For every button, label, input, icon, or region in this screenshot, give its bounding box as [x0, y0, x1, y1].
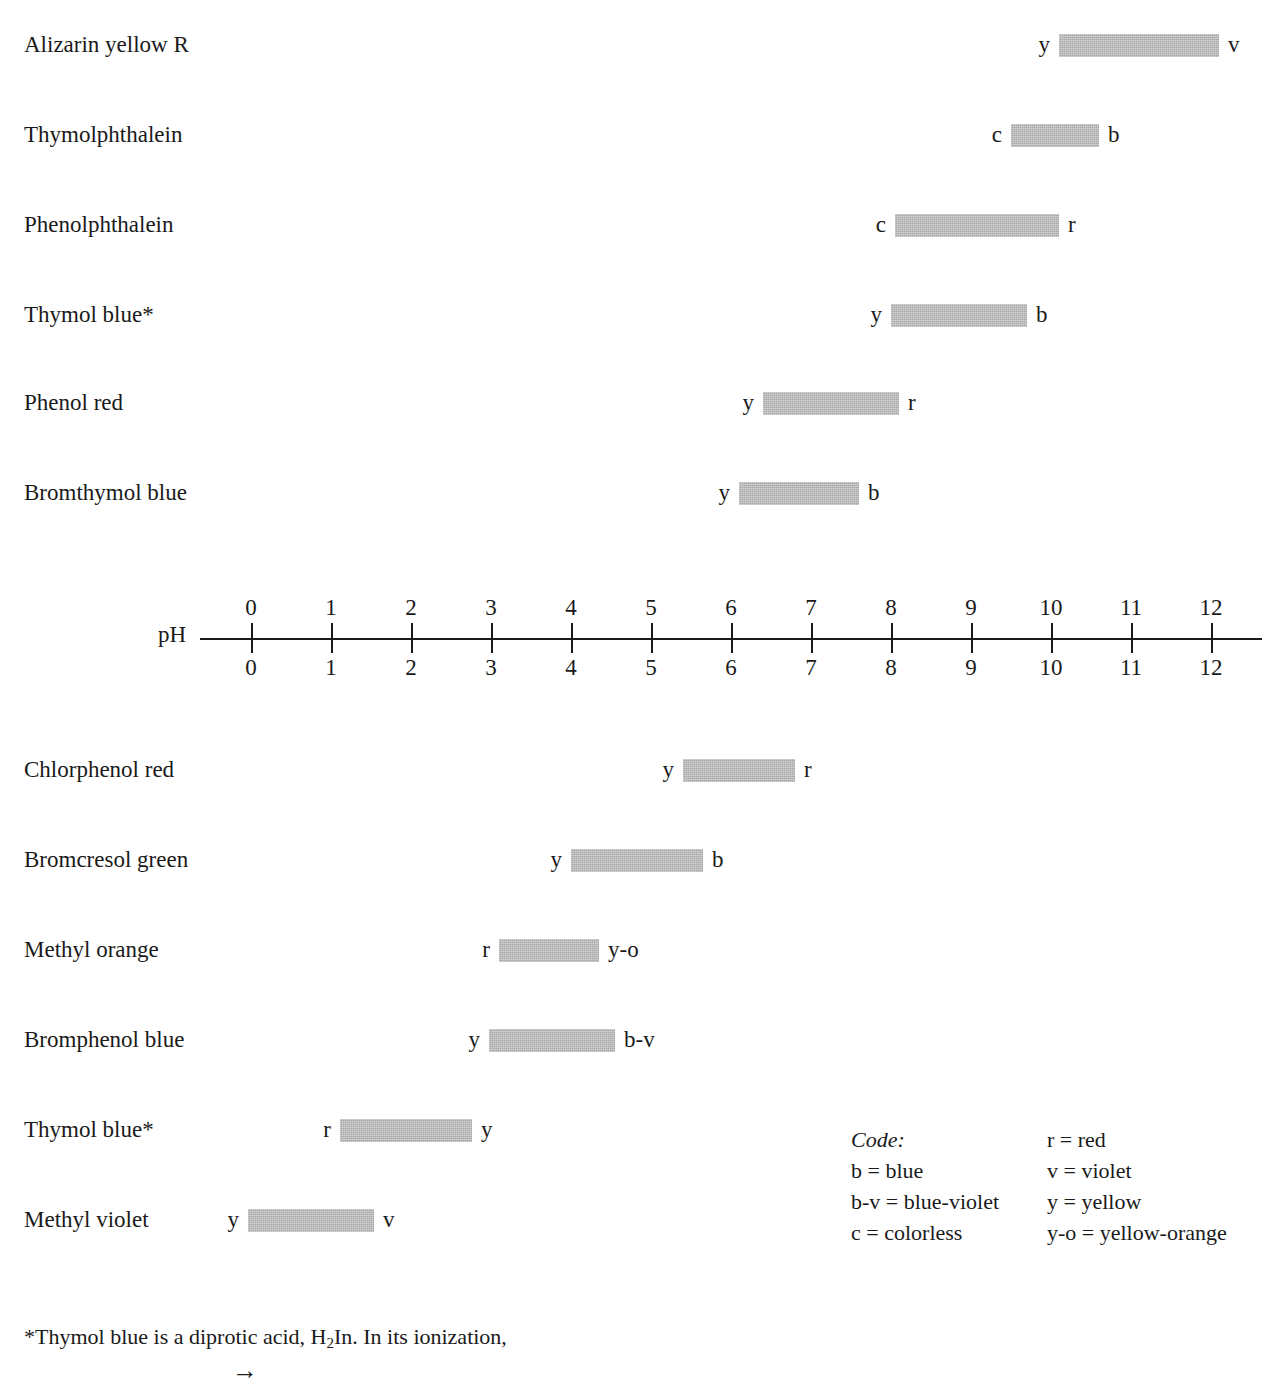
- ph-tick-label-top: 12: [1200, 596, 1223, 619]
- indicator-base-color-label: b-v: [615, 1020, 655, 1060]
- indicator-name: Methyl violet: [24, 1200, 149, 1240]
- indicator-acid-color-label: y: [743, 383, 764, 423]
- indicator-base-color-label: b: [859, 473, 880, 513]
- ph-axis-tick: [971, 623, 973, 653]
- ph-tick-label-bottom: 8: [885, 656, 897, 679]
- footnote-subscript: 2: [326, 1335, 334, 1351]
- indicator-base-color-label: r: [1059, 205, 1076, 245]
- indicator-acid-color-label: y: [228, 1200, 249, 1240]
- indicator-name: Bromcresol green: [24, 840, 188, 880]
- indicator-range-bar: [499, 939, 599, 962]
- code-legend-entry: r = red: [1047, 1124, 1227, 1155]
- ph-axis-tick: [1211, 623, 1213, 653]
- ph-tick-label-bottom: 6: [725, 656, 737, 679]
- indicator-range-bar: [683, 759, 795, 782]
- ph-axis-label: pH: [158, 622, 186, 648]
- ph-axis-tick: [651, 623, 653, 653]
- indicator-row: Bromthymol blue y b: [0, 473, 1267, 513]
- indicator-name: Bromphenol blue: [24, 1020, 184, 1060]
- ph-axis-tick: [491, 623, 493, 653]
- ph-axis-tick: [1131, 623, 1133, 653]
- indicator-row: Chlorphenol red y r: [0, 750, 1267, 790]
- indicator-row: Thymol blue* y b: [0, 295, 1267, 335]
- ph-tick-label-top: 5: [645, 596, 657, 619]
- indicator-base-color-label: y: [472, 1110, 493, 1150]
- indicator-range-bar: [763, 392, 899, 415]
- indicator-name: Thymol blue*: [24, 295, 154, 335]
- indicator-row: Methyl orange r y-o: [0, 930, 1267, 970]
- footnote-prefix: *Thymol blue is a diprotic acid, H: [24, 1324, 326, 1349]
- indicator-range-bar: [1059, 34, 1219, 57]
- ph-tick-label-bottom: 10: [1040, 656, 1063, 679]
- indicator-base-color-label: v: [1219, 25, 1240, 65]
- ph-tick-label-top: 8: [885, 596, 897, 619]
- code-legend-column-left: Code: b = blue b-v = blue-violet c = col…: [851, 1124, 1047, 1248]
- indicator-range-bar: [891, 304, 1027, 327]
- ph-axis-tick: [331, 623, 333, 653]
- footnote: *Thymol blue is a diprotic acid, H2In. I…: [24, 1322, 507, 1358]
- indicator-name: Thymol blue*: [24, 1110, 154, 1150]
- indicator-row: Bromcresol green y b: [0, 840, 1267, 880]
- ph-axis-tick: [1051, 623, 1053, 653]
- footnote-suffix: In. In its ionization,: [334, 1324, 507, 1349]
- indicator-name: Phenol red: [24, 383, 123, 423]
- indicator-range-bar: [895, 214, 1059, 237]
- equilibrium-arrow-icon: →: [232, 1358, 258, 1382]
- ph-tick-label-top: 4: [565, 596, 577, 619]
- indicator-acid-color-label: y: [871, 295, 892, 335]
- code-legend-entry: y-o = yellow-orange: [1047, 1217, 1227, 1248]
- indicator-row: Alizarin yellow R y v: [0, 25, 1267, 65]
- indicator-acid-color-label: r: [482, 930, 499, 970]
- indicator-acid-color-label: c: [992, 115, 1011, 155]
- ph-tick-label-bottom: 1: [325, 656, 337, 679]
- code-legend-entry: y = yellow: [1047, 1186, 1227, 1217]
- indicator-range-bar: [571, 849, 703, 872]
- ph-axis-tick: [731, 623, 733, 653]
- indicator-name: Alizarin yellow R: [24, 25, 189, 65]
- code-legend-entry: b = blue: [851, 1155, 1047, 1186]
- indicator-row: Thymolphthalein c b: [0, 115, 1267, 155]
- ph-tick-label-bottom: 7: [805, 656, 817, 679]
- ph-tick-label-bottom: 5: [645, 656, 657, 679]
- indicator-base-color-label: y-o: [599, 930, 639, 970]
- indicator-range-bar: [489, 1029, 615, 1052]
- indicator-acid-color-label: y: [663, 750, 684, 790]
- indicator-acid-color-label: y: [1039, 25, 1060, 65]
- indicator-base-color-label: b: [1099, 115, 1120, 155]
- indicator-range-bar: [340, 1119, 472, 1142]
- indicator-acid-color-label: r: [323, 1110, 340, 1150]
- indicator-base-color-label: r: [899, 383, 916, 423]
- ph-tick-label-top: 11: [1120, 596, 1142, 619]
- code-legend-entry: b-v = blue-violet: [851, 1186, 1047, 1217]
- ph-tick-label-top: 6: [725, 596, 737, 619]
- ph-tick-label-bottom: 9: [965, 656, 977, 679]
- indicator-base-color-label: r: [795, 750, 812, 790]
- ph-tick-label-top: 10: [1040, 596, 1063, 619]
- indicator-base-color-label: v: [374, 1200, 395, 1240]
- indicator-base-color-label: b: [1027, 295, 1048, 335]
- ph-axis-tick: [811, 623, 813, 653]
- ph-tick-label-bottom: 0: [245, 656, 257, 679]
- indicator-name: Bromthymol blue: [24, 473, 187, 513]
- ph-tick-label-top: 9: [965, 596, 977, 619]
- indicator-range-bar: [248, 1209, 374, 1232]
- indicator-range-bar: [1011, 124, 1099, 147]
- ph-tick-label-top: 0: [245, 596, 257, 619]
- code-legend-entry: v = violet: [1047, 1155, 1227, 1186]
- ph-axis-tick: [411, 623, 413, 653]
- indicator-name: Phenolphthalein: [24, 205, 173, 245]
- indicator-acid-color-label: c: [876, 205, 895, 245]
- code-legend-entry: c = colorless: [851, 1217, 1047, 1248]
- indicator-name: Thymolphthalein: [24, 115, 182, 155]
- indicator-acid-color-label: y: [551, 840, 572, 880]
- indicator-acid-color-label: y: [719, 473, 740, 513]
- indicator-row: Bromphenol blue y b-v: [0, 1020, 1267, 1060]
- ph-tick-label-top: 2: [405, 596, 417, 619]
- ph-axis-tick: [571, 623, 573, 653]
- ph-tick-label-top: 3: [485, 596, 497, 619]
- code-legend-title: Code:: [851, 1124, 1047, 1155]
- ph-tick-label-bottom: 12: [1200, 656, 1223, 679]
- ph-axis-tick: [251, 623, 253, 653]
- indicator-row: Phenolphthalein c r: [0, 205, 1267, 245]
- ph-axis-tick: [891, 623, 893, 653]
